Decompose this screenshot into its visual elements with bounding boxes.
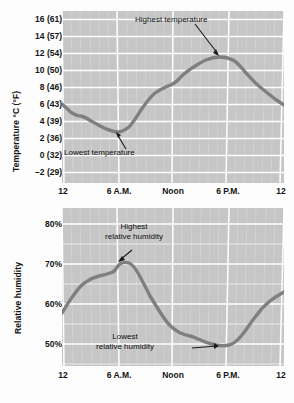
y-tick-label: 80% <box>14 220 62 229</box>
highest-temperature-annotation: Highest temperature <box>135 15 207 25</box>
y-tick-label: 0 (32) <box>14 151 62 160</box>
x-tick-label: 6 A.M. <box>107 370 132 380</box>
y-tick-label: 70% <box>14 260 62 269</box>
y-tick-label: 10 (50) <box>14 66 62 75</box>
x-tick-label: 12 <box>58 186 67 196</box>
temperature-chart: Temperature °C (°F) 16 (61) 14 (57) 12 (… <box>0 0 294 198</box>
x-tick-label: 12 <box>58 370 67 380</box>
lowest-temperature-annotation: Lowest temperature <box>64 148 135 158</box>
y-tick-label: 50% <box>14 340 62 349</box>
lowest-humidity-annotation-line1: Lowest <box>112 332 137 342</box>
x-tick-label: 6 P.M. <box>216 186 239 196</box>
x-tick-label: 6 A.M. <box>107 186 132 196</box>
x-tick-label: Noon <box>162 370 184 380</box>
x-tick-label: 12 <box>276 370 285 380</box>
y-tick-label: 2 (36) <box>14 134 62 143</box>
figure-page: Temperature °C (°F) 16 (61) 14 (57) 12 (… <box>0 0 294 403</box>
humidity-chart: Relative humidity 80% 70% 60% 50% <box>0 198 294 403</box>
highest-humidity-annotation-line2: relative humidity <box>105 232 163 242</box>
y-tick-label: 14 (57) <box>14 32 62 41</box>
lowest-humidity-annotation-line2: relative humidity <box>96 342 154 352</box>
x-tick-label: Noon <box>162 186 184 196</box>
humidity-y-axis-title: Relative humidity <box>13 262 23 334</box>
y-tick-label: 6 (43) <box>14 100 62 109</box>
y-tick-label: 4 (39) <box>14 117 62 126</box>
y-tick-label: 16 (61) <box>14 15 62 24</box>
x-tick-label: 6 P.M. <box>216 370 239 380</box>
y-tick-label: 60% <box>14 300 62 309</box>
y-tick-label: 12 (54) <box>14 49 62 58</box>
y-tick-label: 8 (46) <box>14 83 62 92</box>
x-tick-label: 12 <box>276 186 285 196</box>
y-tick-label: –2 (29) <box>14 168 62 177</box>
highest-humidity-annotation-line1: Highest <box>120 222 147 232</box>
